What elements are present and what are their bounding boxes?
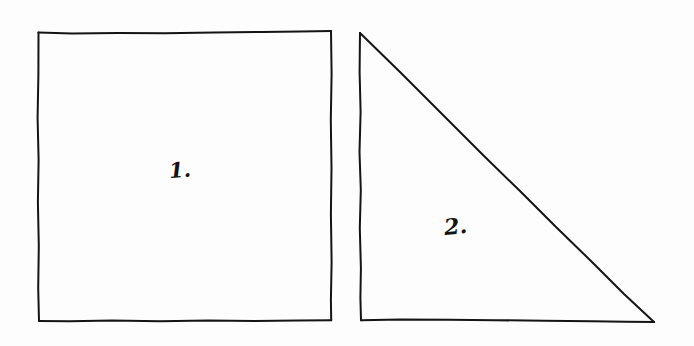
square-top-edge — [39, 31, 332, 34]
square-label: 1. — [168, 156, 192, 182]
triangle-hypotenuse-edge — [360, 33, 654, 322]
triangle-shape — [360, 33, 655, 322]
triangle-bottom-edge — [361, 319, 654, 322]
triangle-left-edge — [360, 33, 362, 320]
triangle-label: 2. — [443, 212, 468, 240]
square-bottom-edge — [39, 320, 331, 321]
square-left-edge — [38, 33, 39, 322]
sketch-canvas: 1. 2. — [0, 0, 694, 346]
square-right-edge — [331, 31, 332, 320]
hand-drawn-shapes-svg — [0, 0, 694, 346]
